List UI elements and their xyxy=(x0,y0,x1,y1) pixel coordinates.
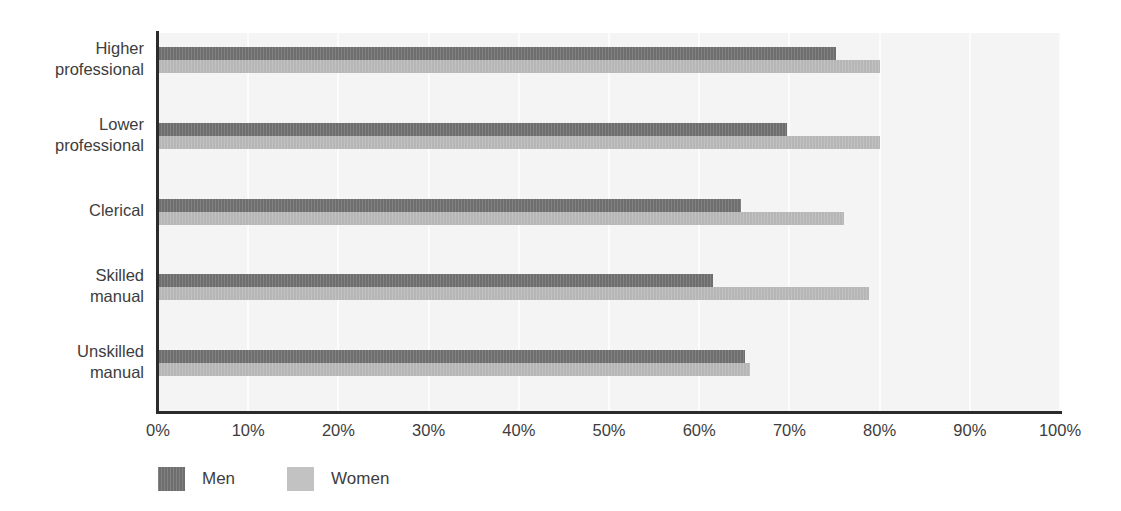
bar-women-3 xyxy=(158,287,869,300)
x-tick-label-90: 90% xyxy=(930,421,1010,440)
y-axis-line xyxy=(156,31,159,414)
bar-men-4 xyxy=(158,350,745,363)
y-axis-label-1: Lowerprofessional xyxy=(0,114,144,156)
x-tick-label-80: 80% xyxy=(840,421,920,440)
legend-item-men: Men xyxy=(158,467,235,491)
y-axis-label-line: Unskilled xyxy=(0,341,144,362)
y-axis-label-line: Clerical xyxy=(0,200,144,221)
bar-men-1 xyxy=(158,123,787,136)
y-axis-label-line: professional xyxy=(0,59,144,80)
bar-women-0 xyxy=(158,60,880,73)
y-axis-label-3: Skilledmanual xyxy=(0,265,144,307)
y-axis-label-line: manual xyxy=(0,286,144,307)
bar-men-0 xyxy=(158,47,836,60)
x-axis-line xyxy=(156,411,1062,414)
x-tick-label-40: 40% xyxy=(479,421,559,440)
y-axis-label-line: Higher xyxy=(0,38,144,59)
y-axis-label-line: professional xyxy=(0,135,144,156)
plot-area xyxy=(158,33,1060,412)
bar-women-4 xyxy=(158,363,750,376)
x-tick-label-0: 0% xyxy=(118,421,198,440)
bar-women-2 xyxy=(158,212,844,225)
x-tick-label-100: 100% xyxy=(1020,421,1100,440)
y-axis-label-line: Skilled xyxy=(0,265,144,286)
bar-men-2 xyxy=(158,199,741,212)
gridline-90 xyxy=(969,33,971,412)
x-tick-label-20: 20% xyxy=(298,421,378,440)
y-axis-label-line: Lower xyxy=(0,114,144,135)
bar-chart: HigherprofessionalLowerprofessionalCleri… xyxy=(0,0,1121,511)
x-tick-label-50: 50% xyxy=(569,421,649,440)
bar-men-3 xyxy=(158,274,713,287)
gridline-100 xyxy=(1059,33,1061,412)
chart-legend: Men Women xyxy=(158,466,441,492)
x-tick-label-70: 70% xyxy=(749,421,829,440)
x-tick-label-10: 10% xyxy=(208,421,288,440)
y-axis-label-line: manual xyxy=(0,362,144,383)
x-tick-label-30: 30% xyxy=(389,421,469,440)
y-axis-label-0: Higherprofessional xyxy=(0,38,144,80)
legend-item-women: Women xyxy=(287,467,389,491)
legend-label-women: Women xyxy=(331,469,389,489)
legend-swatch-men-icon xyxy=(158,467,185,491)
legend-swatch-women-icon xyxy=(287,467,314,491)
y-axis-label-4: Unskilledmanual xyxy=(0,341,144,383)
bar-women-1 xyxy=(158,136,880,149)
legend-label-men: Men xyxy=(202,469,235,489)
x-tick-label-60: 60% xyxy=(659,421,739,440)
y-axis-label-2: Clerical xyxy=(0,200,144,221)
gridline-80 xyxy=(879,33,881,412)
